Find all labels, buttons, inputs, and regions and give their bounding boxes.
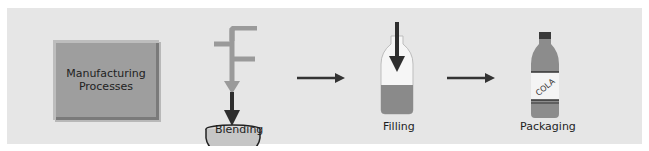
step-label-filling: Filling xyxy=(383,120,415,133)
step-label-blending: Blending xyxy=(215,123,263,136)
flow-arrow-icon xyxy=(297,72,347,84)
box-label-line1: Manufacturing xyxy=(66,67,146,80)
cola-bottle-icon: COLA xyxy=(525,30,565,120)
box-label-line2: Processes xyxy=(66,80,146,93)
manufacturing-processes-box: Manufacturing Processes xyxy=(53,40,159,120)
bottle-filling-icon xyxy=(377,20,417,120)
step-label-packaging: Packaging xyxy=(520,120,576,133)
diagram-panel: Manufacturing Processes Blending Filling xyxy=(7,8,642,144)
flow-arrow-icon xyxy=(447,72,497,84)
